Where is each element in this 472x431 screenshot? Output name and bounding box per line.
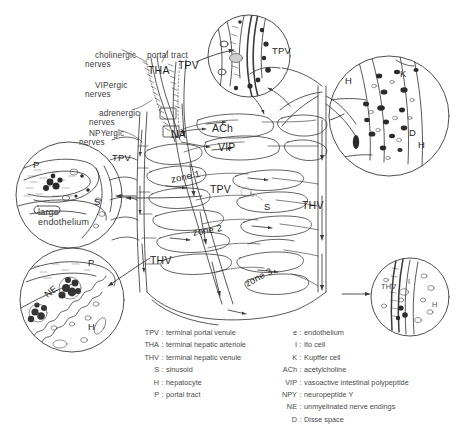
legend-abbreviation: VIP: [273, 377, 297, 388]
legend-row: D:Disse space: [273, 414, 469, 425]
legend-row: NPY:neuropeptide Y: [273, 389, 469, 400]
legend-definition: terminal hepatic arteriole: [166, 339, 255, 350]
inset-top-label-tpv: TPV: [272, 45, 291, 56]
inset-left-label-endothelium: endothelium: [38, 217, 89, 228]
inset-left-label-p: P: [33, 159, 39, 170]
legend-abbreviation: THA: [133, 339, 159, 350]
legend-separator: :: [159, 327, 166, 338]
legend-abbreviation: e: [273, 327, 297, 338]
legend-definition: Ito cell: [304, 339, 469, 350]
upper-branch-network: [250, 67, 358, 140]
structure-label-tpv-inset-left: TPV: [112, 152, 131, 163]
legend-definition: sinusoid: [166, 364, 255, 375]
inset-right-circle: [329, 56, 449, 176]
legend-definition: terminal portal venule: [166, 327, 255, 338]
legend-definition: endothelium: [304, 327, 469, 338]
legend-definition: unmyelinated nerve endings: [304, 401, 469, 412]
inset-callout-arrows: [108, 50, 370, 294]
inset-bottom-left-label-p: P: [88, 257, 94, 268]
inset-right-label-h2: H: [418, 139, 425, 150]
legend-definition: neuropeptide Y: [304, 389, 469, 400]
legend-row: VIP:vasoactive intestinal polypeptide: [273, 377, 469, 388]
structure-label-na: NA: [171, 128, 186, 140]
legend-row: P:portal tract: [133, 389, 255, 400]
inset-bottom-right-circle: [371, 258, 449, 336]
inset-bottom-right-label-i: I: [408, 278, 410, 287]
legend-abbreviation: THV: [133, 352, 159, 363]
legend-abbreviation: P: [133, 389, 159, 400]
legend-separator: :: [159, 352, 166, 363]
legend-separator: :: [159, 377, 166, 388]
inset-right-label-d: D: [409, 127, 416, 138]
legend-abbreviation: K: [273, 352, 297, 363]
legend-separator: :: [297, 414, 304, 425]
legend-abbreviation: NPY: [273, 389, 297, 400]
legend-abbreviation: D: [273, 414, 297, 425]
legend-separator: :: [159, 339, 166, 350]
structure-label-thv-right: THV: [302, 199, 324, 211]
legend-row: ACh:acetylcholine: [273, 364, 469, 375]
legend-definition: acetylcholine: [304, 364, 469, 375]
legend-separator: :: [297, 401, 304, 412]
inset-left-circle: [16, 142, 122, 248]
legend-row: K:Kupffer cell: [273, 352, 469, 363]
inset-bottom-right-label-h: H: [432, 301, 438, 310]
structure-label-vip: VIP: [218, 141, 236, 153]
legend-separator: :: [297, 377, 304, 388]
legend-separator: :: [297, 327, 304, 338]
legend-separator: :: [297, 389, 304, 400]
legend-row: THA:terminal hepatic arteriole: [133, 339, 255, 350]
legend-abbreviation: I: [273, 339, 297, 350]
inset-right-label-h1: H: [345, 75, 352, 86]
legend-definition: portal tract: [166, 389, 255, 400]
legend-separator: :: [297, 339, 304, 350]
inset-left-label-s: S: [94, 196, 100, 207]
inset-top-circle: [208, 14, 290, 100]
legend-row: e:endothelium: [273, 327, 469, 338]
structure-label-s-center: S: [264, 201, 270, 212]
structure-label-tpv-mid: TPV: [210, 183, 231, 195]
legend-definition: Kupffer cell: [304, 352, 469, 363]
legend-abbreviation: ACh: [273, 364, 297, 375]
legend-abbreviation: NE: [273, 401, 297, 412]
legend-row: H:hepatocyte: [133, 377, 255, 388]
legend-abbreviation: S: [133, 364, 159, 375]
legend-definition: hepatocyte: [166, 377, 255, 388]
legend-row: THV:terminal hepatic venule: [133, 352, 255, 363]
legend-row: NE:unmyelinated nerve endings: [273, 401, 469, 412]
structure-label-tpv-top: TPV: [178, 59, 199, 71]
legend-row: TPV:terminal portal venule: [133, 327, 255, 338]
structure-label-ach: ACh: [212, 122, 233, 134]
legend-row: I:Ito cell: [273, 339, 469, 350]
legend-column-right: e:endotheliumI:Ito cellK:Kupffer cellACh…: [273, 327, 469, 423]
legend-separator: :: [297, 364, 304, 375]
legend-row: S:sinusoid: [133, 364, 255, 375]
inset-bottom-left-label-h: H: [88, 321, 95, 332]
legend-definition: Disse space: [304, 414, 469, 425]
legend-separator: :: [297, 352, 304, 363]
legend-column-left: TPV:terminal portal venuleTHA:terminal h…: [133, 327, 255, 423]
structure-label-thv-left: THV: [150, 254, 172, 266]
figure-canvas: cholinergic nerves portal tract VIPergic…: [0, 0, 472, 431]
legend: TPV:terminal portal venuleTHA:terminal h…: [133, 327, 469, 423]
legend-abbreviation: TPV: [133, 327, 159, 338]
structure-label-tha: THA: [148, 64, 170, 76]
inset-bottom-left-circle: [18, 248, 124, 352]
legend-separator: :: [159, 364, 166, 375]
legend-definition: vasoactive intestinal polypeptide: [304, 377, 469, 388]
legend-abbreviation: H: [133, 377, 159, 388]
legend-definition: terminal hepatic venule: [166, 352, 255, 363]
legend-separator: :: [159, 389, 166, 400]
inset-bottom-right-label-thv: THV: [381, 283, 396, 292]
inset-right-label-k: K: [400, 68, 406, 79]
